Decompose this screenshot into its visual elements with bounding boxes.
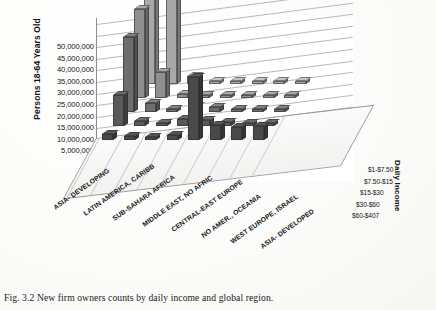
bar-face bbox=[273, 81, 284, 84]
bar-side bbox=[134, 34, 138, 112]
x-category-4: CENTRAL-EAST EUROPE bbox=[170, 178, 244, 233]
bar-face bbox=[156, 123, 167, 126]
bar-face bbox=[209, 81, 220, 84]
bar-side bbox=[177, 0, 181, 84]
bar-side bbox=[199, 75, 203, 140]
bar-4-0 bbox=[230, 81, 241, 84]
bar-6-4 bbox=[231, 127, 242, 140]
bar-0-3 bbox=[113, 95, 124, 126]
bar-6-1 bbox=[263, 95, 274, 98]
bar-5-2 bbox=[231, 109, 242, 112]
bar-face bbox=[155, 72, 166, 98]
legend-item-2: $15-$30 bbox=[360, 189, 384, 196]
x-category-3: MIDDLE EAST, NO AFRIC bbox=[141, 174, 214, 228]
z-axis-title: Daily Income bbox=[393, 160, 402, 240]
bar-7-4 bbox=[253, 126, 264, 140]
bar-face bbox=[231, 109, 242, 112]
bar-2-1 bbox=[177, 94, 188, 98]
bar-3-3 bbox=[177, 119, 188, 126]
bar-face bbox=[284, 95, 295, 98]
bar-6-0 bbox=[273, 81, 284, 84]
legend-item-4: $60-$407 bbox=[352, 212, 379, 219]
bar-7-0 bbox=[295, 81, 306, 84]
bar-side bbox=[145, 6, 149, 98]
bar-5-0 bbox=[252, 81, 263, 84]
bar-face bbox=[253, 126, 264, 140]
bar-face bbox=[252, 109, 263, 112]
bar-4-2 bbox=[209, 107, 220, 112]
legend-item-0: $1-$7.50 bbox=[368, 166, 393, 173]
bar-5-1 bbox=[241, 95, 252, 98]
bar-face bbox=[124, 136, 135, 140]
x-category-2: SUB-SAHARA AFRICA bbox=[111, 173, 176, 221]
bar-2-3 bbox=[156, 123, 167, 126]
x-axis-category-labels: ASIA- DEVELOPINGLATIN AMERICA, CARIBBSUB… bbox=[0, 0, 436, 310]
bar-2-2 bbox=[166, 109, 177, 112]
bar-face bbox=[113, 95, 124, 126]
bar-face bbox=[210, 125, 221, 140]
bar-5-4 bbox=[210, 125, 221, 140]
bar-face bbox=[177, 119, 188, 126]
bar-3-4 bbox=[167, 135, 178, 140]
bar-face bbox=[166, 109, 177, 112]
bar-face bbox=[241, 95, 252, 98]
bar-side bbox=[124, 92, 128, 126]
bar-1-3 bbox=[134, 121, 145, 126]
bar-face bbox=[230, 81, 241, 84]
bar-7-2 bbox=[274, 109, 285, 112]
bar-face bbox=[295, 81, 306, 84]
bar-face bbox=[134, 121, 145, 126]
legend-item-3: $30-$60 bbox=[356, 201, 380, 208]
bar-6-2 bbox=[252, 109, 263, 112]
bar-4-1 bbox=[220, 95, 231, 98]
bar-face bbox=[220, 95, 231, 98]
bar-face bbox=[252, 81, 263, 84]
bar-face bbox=[274, 109, 285, 112]
bar-7-1 bbox=[284, 95, 295, 98]
bar-0-4 bbox=[102, 134, 113, 140]
bar-side bbox=[166, 70, 170, 98]
bar-face bbox=[188, 77, 199, 140]
bar-2-4 bbox=[145, 137, 156, 140]
bar-face bbox=[231, 127, 242, 140]
x-category-6: WEST EUROPE, ISRAEL bbox=[229, 192, 299, 244]
figure-caption: Fig. 3.2 New firm owners counts by daily… bbox=[4, 292, 273, 303]
legend-item-1: $7.50-$15 bbox=[364, 178, 393, 185]
bar-1-2 bbox=[145, 103, 156, 112]
bar-face bbox=[145, 137, 156, 140]
bar-face bbox=[145, 103, 156, 112]
x-category-1: LATIN AMERICA, CARIBB bbox=[82, 162, 156, 217]
bar-face bbox=[102, 134, 113, 140]
bar-1-4 bbox=[124, 136, 135, 140]
bar-face bbox=[263, 95, 274, 98]
figure-3-2: Persons 18-64 Years Old 05,000,00010,000… bbox=[0, 0, 436, 310]
bar-3-0 bbox=[209, 81, 220, 84]
bar-face bbox=[167, 135, 178, 140]
bar-4-4 bbox=[188, 77, 199, 140]
bar-1-1 bbox=[155, 72, 166, 98]
bar-face bbox=[177, 94, 188, 98]
bar-face bbox=[209, 107, 220, 112]
